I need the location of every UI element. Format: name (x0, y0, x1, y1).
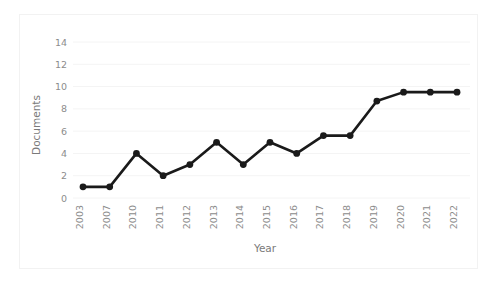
y-tick-label: 14 (55, 37, 67, 48)
y-tick-label: 2 (61, 170, 67, 181)
y-tick-label: 12 (55, 59, 67, 70)
data-point-2017 (320, 132, 327, 139)
data-point-2014 (240, 161, 247, 168)
y-axis-tick-labels: 02468101214 (55, 37, 67, 204)
data-point-2019 (373, 98, 380, 105)
line-chart: 02468101214 2003200720102011201220132014… (0, 0, 503, 289)
data-point-2010 (133, 150, 140, 157)
y-tick-label: 0 (61, 193, 67, 204)
x-axis-tick-labels: 2003200720102011201220132014201520162017… (74, 205, 459, 229)
series-markers-documents (80, 89, 461, 191)
y-tick-label: 10 (55, 81, 67, 92)
data-point-2016 (293, 150, 300, 157)
data-point-2007 (106, 183, 113, 190)
data-point-2021 (427, 89, 434, 96)
data-point-2012 (186, 161, 193, 168)
x-tick-label-2011: 2011 (154, 205, 165, 229)
y-tick-label: 6 (61, 126, 67, 137)
data-point-2022 (454, 89, 461, 96)
x-tick-label-2015: 2015 (261, 205, 272, 229)
x-tick-label-2012: 2012 (181, 205, 192, 229)
x-tick-label-2020: 2020 (395, 205, 406, 229)
data-point-2015 (267, 139, 274, 146)
data-point-2018 (347, 132, 354, 139)
x-tick-label-2022: 2022 (448, 205, 459, 229)
x-tick-label-2003: 2003 (74, 205, 85, 229)
x-tick-label-2014: 2014 (234, 205, 245, 229)
x-tick-label-2017: 2017 (314, 205, 325, 229)
data-point-2003 (80, 183, 87, 190)
data-point-2011 (160, 172, 167, 179)
data-point-2020 (400, 89, 407, 96)
y-tick-label: 8 (61, 103, 67, 114)
x-tick-label-2007: 2007 (101, 205, 112, 229)
x-tick-label-2018: 2018 (341, 205, 352, 229)
x-tick-label-2021: 2021 (421, 205, 432, 229)
chart-figure: 02468101214 2003200720102011201220132014… (0, 0, 503, 289)
y-axis-title: Documents (30, 95, 42, 155)
x-tick-label-2010: 2010 (127, 205, 138, 229)
gridlines (73, 42, 470, 198)
y-tick-label: 4 (61, 148, 67, 159)
x-axis-title: Year (253, 242, 277, 254)
x-tick-label-2013: 2013 (208, 205, 219, 229)
x-tick-label-2016: 2016 (288, 205, 299, 229)
x-tick-label-2019: 2019 (368, 205, 379, 229)
data-point-2013 (213, 139, 220, 146)
